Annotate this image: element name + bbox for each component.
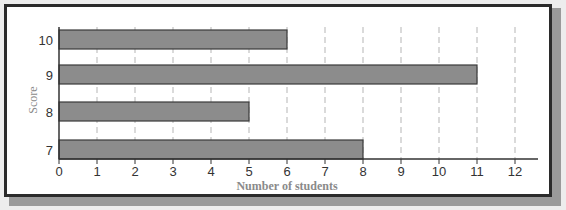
bar (59, 30, 287, 49)
y-axis-label: Score (26, 86, 40, 113)
x-tick-label: 9 (397, 164, 404, 179)
x-tick-label: 4 (207, 164, 214, 179)
y-tick-label: 7 (46, 143, 53, 158)
bar (59, 102, 249, 121)
x-tick-label: 12 (508, 164, 522, 179)
x-tick-label: 5 (245, 164, 252, 179)
bar (59, 65, 477, 84)
x-tick-label: 10 (432, 164, 446, 179)
x-tick-label: 11 (470, 164, 484, 179)
y-tick-label: 10 (39, 33, 53, 48)
bars (59, 30, 477, 159)
x-tick-label: 8 (359, 164, 366, 179)
y-tick-label: 8 (46, 105, 53, 120)
x-axis-label: Number of students (236, 179, 337, 193)
x-tick-label: 3 (169, 164, 176, 179)
y-tick-label: 9 (46, 68, 53, 83)
bar-chart: 109870123456789101112 Number of students… (0, 0, 566, 210)
x-tick-label: 7 (321, 164, 328, 179)
x-tick-label: 0 (55, 164, 62, 179)
x-tick-label: 1 (93, 164, 100, 179)
x-tick-label: 2 (131, 164, 138, 179)
bar (59, 140, 363, 159)
x-tick-label: 6 (283, 164, 290, 179)
